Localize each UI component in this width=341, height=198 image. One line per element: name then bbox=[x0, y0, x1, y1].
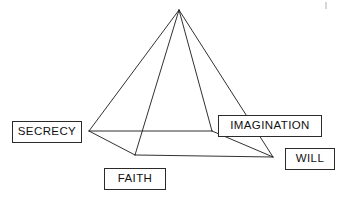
pyramid-edge-front-to-right bbox=[135, 155, 273, 157]
label-text-will: WILL bbox=[296, 153, 324, 166]
pyramid-edge-left-to-front bbox=[89, 131, 135, 155]
label-text-faith: FAITH bbox=[118, 173, 153, 186]
label-box-secrecy[interactable]: SECRECY bbox=[12, 121, 82, 143]
label-text-imagination: IMAGINATION bbox=[230, 120, 310, 133]
diagram-canvas: SECRECY IMAGINATION FAITH WILL bbox=[0, 0, 341, 198]
label-box-will[interactable]: WILL bbox=[285, 148, 335, 170]
label-box-faith[interactable]: FAITH bbox=[104, 168, 166, 190]
label-text-secrecy: SECRECY bbox=[18, 126, 76, 139]
pyramid-edge-apex-to-front bbox=[135, 10, 179, 155]
pyramid-edge-apex-to-left bbox=[89, 10, 179, 131]
pyramid-edge-apex-to-back bbox=[179, 10, 212, 131]
label-box-imagination[interactable]: IMAGINATION bbox=[218, 115, 322, 137]
